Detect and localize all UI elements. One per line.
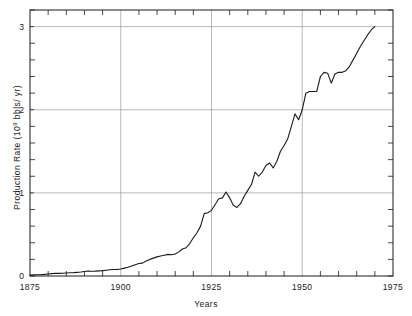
y-axis-title-exponent: 9 [12,122,18,126]
x-axis-title: Years [0,299,412,309]
y-tick-label: 3 [19,22,24,32]
x-tick-label: 1900 [110,282,131,292]
x-tick-label: 1950 [292,282,313,292]
gridlines [30,10,393,276]
y-tick-label: 0 [19,271,24,281]
data-series-line [30,27,375,275]
chart-canvas: 187519001925195019750123 [0,0,412,316]
x-tick-label: 1925 [201,282,222,292]
y-axis-title: Production Rate (109 bbls/ yr) [12,67,23,227]
y-axis-title-prefix: Production Rate (10 [12,126,22,210]
y-axis-title-suffix: bbls/ yr) [12,85,22,122]
x-tick-label: 1875 [20,282,41,292]
x-tick-label: 1975 [383,282,404,292]
production-rate-chart: 187519001925195019750123 Production Rate… [0,0,412,316]
